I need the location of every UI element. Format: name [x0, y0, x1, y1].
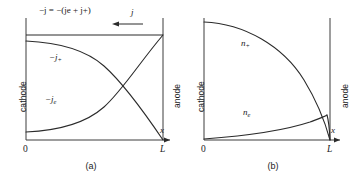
x-axis-arrowhead-b	[334, 138, 340, 143]
anode-label-b: anode	[340, 84, 350, 108]
curve-label-n-e: ne	[243, 108, 250, 117]
curve-label-n-plus: n+	[241, 39, 250, 48]
curve-label-minus-j-plus: −j+	[49, 53, 62, 62]
curve-label-minus-j-e: −je	[45, 95, 56, 104]
current-arrow-head	[112, 22, 119, 27]
x-axis-label-a: x	[160, 126, 164, 135]
cathode-label-b: cathode	[196, 81, 206, 112]
panel-a: −j = −(je + j+) j cathode anode −j+ −je …	[0, 0, 182, 178]
curve-minus-j-e	[26, 35, 163, 132]
panel-b-plot	[182, 0, 364, 178]
cathode-label-a: cathode	[18, 81, 28, 112]
x-tick-zero-a: 0	[23, 145, 28, 155]
x-axis-label-b: x	[331, 126, 335, 135]
x-tick-L-a: L	[160, 145, 165, 155]
x-tick-zero-b: 0	[201, 145, 206, 155]
total-current-equation: −j = −(je + j+)	[39, 6, 91, 15]
curve-n-plus	[204, 22, 330, 140]
curve-minus-j-plus	[26, 41, 163, 140]
x-tick-L-b: L	[327, 145, 332, 155]
anode-label-a: anode	[172, 84, 182, 108]
caption-b: (b)	[182, 162, 364, 171]
figure-root: −j = −(je + j+) j cathode anode −j+ −je …	[0, 0, 364, 178]
x-axis-arrowhead-a	[164, 138, 170, 143]
equation-text: −j = −(je + j+)	[39, 5, 91, 15]
caption-a: (a)	[0, 162, 182, 171]
current-arrow-label: j	[131, 8, 134, 17]
panel-b: cathode anode n+ ne x 0 L (b)	[182, 0, 364, 178]
curve-n-e	[204, 115, 327, 139]
